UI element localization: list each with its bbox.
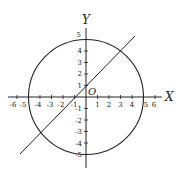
x-tick-label: 4: [130, 101, 135, 109]
x-tick-label: -5: [20, 101, 27, 109]
y-tick-label: 3: [78, 59, 82, 67]
x-tick-label: -6: [10, 101, 17, 109]
x-tick-label: 6: [152, 101, 157, 109]
y-tick-label: -3: [75, 128, 82, 136]
y-tick-label: -1: [75, 105, 82, 113]
y-tick-label: 2: [78, 70, 82, 78]
x-tick-label: 5: [144, 101, 148, 109]
y-axis-label: Y: [82, 13, 91, 27]
x-axis-label: X: [164, 90, 174, 104]
x-tick-label: -3: [47, 101, 54, 109]
origin-label: O: [88, 86, 96, 97]
x-tick-label: -2: [58, 101, 65, 109]
x-tick-label: -4: [35, 101, 42, 109]
y-tick-label: -4: [75, 140, 82, 148]
x-tick-label: 1: [95, 101, 99, 109]
y-tick-label: 4: [78, 47, 83, 55]
y-tick-label: 1: [78, 82, 82, 90]
y-tick-label: -5: [75, 151, 82, 159]
x-tick-label: 3: [118, 101, 122, 109]
y-tick-label: -2: [75, 117, 82, 125]
y-tick-label: 5: [77, 31, 81, 39]
coordinate-diagram: -6 -5 -4 -3 -2 -1 1 2 3 4 5 6 5 4 3 2 1 …: [0, 0, 180, 178]
x-tick-label: 2: [107, 101, 111, 109]
